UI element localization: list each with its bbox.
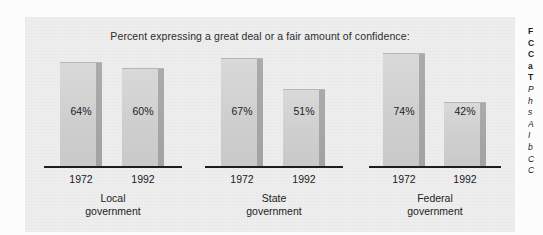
caption-line: C [528, 38, 543, 50]
bar-side-edge [319, 89, 325, 166]
bar-value-state-1972: 67% [219, 105, 265, 117]
bar-local-1992[interactable] [122, 68, 164, 166]
bar-side-edge [158, 68, 164, 166]
group-label-state: State government [204, 192, 344, 217]
group-label-line1: State [204, 192, 344, 205]
bar-value-state-1992: 51% [281, 105, 327, 117]
group-label-line1: Federal [365, 192, 505, 205]
figure-container: Percent expressing a great deal or a fai… [0, 0, 543, 235]
tick-label-federal-1992: 1992 [441, 173, 489, 185]
caption-line: A [528, 119, 543, 131]
tick-label-state-1992: 1992 [280, 173, 328, 185]
axis-baseline [205, 166, 343, 168]
bar-face [283, 89, 319, 166]
caption-line: C [528, 165, 543, 177]
bar-state-1992[interactable] [283, 89, 325, 166]
bar-groups: 64% 1972 60% 1992 Local government 67% [0, 0, 543, 235]
caption-line: T [528, 72, 543, 84]
bar-top-edge [444, 102, 486, 103]
caption-line: C [528, 154, 543, 166]
tick-label-local-1972: 1972 [57, 173, 105, 185]
caption-line: h [528, 96, 543, 108]
caption-line: s [528, 107, 543, 119]
bar-value-federal-1992: 42% [442, 105, 488, 117]
bar-top-edge [60, 62, 102, 63]
axis-baseline [44, 166, 182, 168]
group-label-line2: government [365, 205, 505, 218]
caption-line: P [528, 84, 543, 96]
tick-label-state-1972: 1972 [218, 173, 266, 185]
bar-value-local-1972: 64% [58, 105, 104, 117]
group-label-line2: government [204, 205, 344, 218]
caption-line: I [528, 130, 543, 142]
bar-top-edge [221, 58, 263, 59]
bar-top-edge [383, 53, 425, 54]
group-label-line1: Local [43, 192, 183, 205]
bar-face [122, 68, 158, 166]
bar-top-edge [283, 89, 325, 90]
group-label-line2: government [43, 205, 183, 218]
bar-top-edge [122, 68, 164, 69]
caption-column: F C C a T P h s A I b C C [528, 26, 543, 211]
caption-line: b [528, 142, 543, 154]
bar-value-local-1992: 60% [120, 105, 166, 117]
tick-label-local-1992: 1992 [119, 173, 167, 185]
caption-line: F [528, 26, 543, 38]
axis-baseline [369, 166, 501, 168]
caption-line: C [528, 49, 543, 61]
bar-value-federal-1972: 74% [381, 105, 427, 117]
group-label-local: Local government [43, 192, 183, 217]
tick-label-federal-1972: 1972 [380, 173, 428, 185]
group-label-federal: Federal government [365, 192, 505, 217]
caption-line: a [528, 61, 543, 73]
